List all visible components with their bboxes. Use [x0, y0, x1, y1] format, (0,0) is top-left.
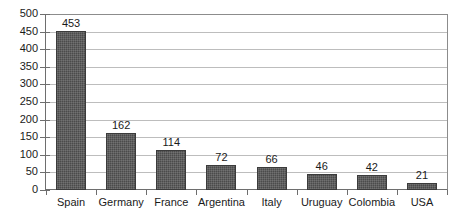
y-axis-tick-label: 350: [0, 61, 38, 72]
y-axis-tick-label: 400: [0, 43, 38, 54]
y-axis-tick-label: 200: [0, 114, 38, 125]
bar-group: 162: [96, 14, 146, 190]
x-axis-tick-mark: [196, 190, 197, 195]
y-axis-tick-mark: [40, 137, 50, 138]
x-axis-category-label: Spain: [46, 197, 96, 208]
x-axis-category-label: USA: [397, 197, 447, 208]
bar[interactable]: [156, 150, 186, 190]
bar-group: 114: [146, 14, 196, 190]
bar-group: 453: [46, 14, 96, 190]
x-axis-tick-mark: [447, 190, 448, 195]
bar-value-label: 453: [46, 18, 96, 29]
bar-value-label: 66: [247, 154, 297, 165]
y-axis-tick-label: 150: [0, 131, 38, 142]
y-axis-tick-label: 500: [0, 8, 38, 19]
bar-chart: 500450400350300250200150100500 453162114…: [0, 0, 457, 223]
bar[interactable]: [357, 175, 387, 190]
bar-group: 66: [247, 14, 297, 190]
y-axis-tick-mark: [40, 67, 50, 68]
x-axis-tick-mark: [297, 190, 298, 195]
y-axis-tick-mark: [40, 190, 50, 191]
bar-value-label: 114: [146, 137, 196, 148]
x-axis-category-label: Uruguay: [297, 197, 347, 208]
bar[interactable]: [307, 174, 337, 190]
bar[interactable]: [206, 165, 236, 190]
bar[interactable]: [106, 133, 136, 190]
x-axis: SpainGermanyFranceArgentinaItalyUruguayC…: [46, 197, 447, 215]
y-axis-tick-mark: [40, 84, 50, 85]
bar-group: 21: [397, 14, 447, 190]
y-axis-tick-mark: [40, 14, 50, 15]
x-axis-category-label: Colombia: [347, 197, 397, 208]
bars-layer: 4531621147266464221: [46, 14, 447, 190]
y-axis-tick-mark: [40, 172, 50, 173]
y-axis-tick-mark: [40, 32, 50, 33]
y-axis-tick-label: 0: [0, 184, 38, 195]
bar-value-label: 21: [397, 170, 447, 181]
bar-value-label: 46: [297, 161, 347, 172]
bar[interactable]: [407, 183, 437, 190]
y-axis-tick-mark: [40, 49, 50, 50]
bar-group: 42: [347, 14, 397, 190]
y-axis-tick-label: 300: [0, 78, 38, 89]
y-axis: 500450400350300250200150100500: [0, 0, 41, 223]
bar-value-label: 162: [96, 120, 146, 131]
x-axis-category-label: Argentina: [196, 197, 246, 208]
y-axis-tick-label: 100: [0, 149, 38, 160]
x-axis-tick-mark: [347, 190, 348, 195]
bar-group: 72: [196, 14, 246, 190]
y-axis-tick-label: 450: [0, 26, 38, 37]
bar[interactable]: [257, 167, 287, 190]
bar-value-label: 42: [347, 162, 397, 173]
y-axis-tick-mark: [40, 155, 50, 156]
y-axis-tick-mark: [40, 120, 50, 121]
y-axis-tick-mark: [40, 102, 50, 103]
x-axis-tick-mark: [247, 190, 248, 195]
x-axis-tick-mark: [146, 190, 147, 195]
x-axis-category-label: Italy: [247, 197, 297, 208]
x-axis-tick-mark: [397, 190, 398, 195]
y-axis-tick-label: 250: [0, 96, 38, 107]
y-axis-tick-label: 50: [0, 166, 38, 177]
x-axis-tick-mark: [96, 190, 97, 195]
x-axis-category-label: Germany: [96, 197, 146, 208]
x-axis-tick-mark: [46, 190, 47, 195]
x-axis-category-label: France: [146, 197, 196, 208]
bar[interactable]: [56, 31, 86, 190]
bar-group: 46: [297, 14, 347, 190]
bar-value-label: 72: [196, 152, 246, 163]
